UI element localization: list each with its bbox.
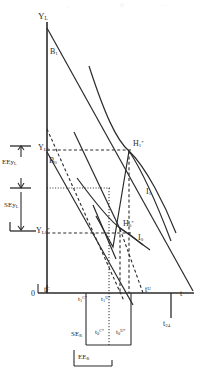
se-y-l-label: SEyL — [4, 202, 18, 209]
se-r-label: SER — [71, 331, 82, 338]
t-axis-end-label: t — [180, 290, 182, 298]
figure-canvas: ,, 0 — — [0, 0, 197, 377]
budget-line-1-label: B1 — [50, 48, 58, 57]
t1-u-star-label: t1U* — [101, 296, 110, 303]
ee-y-l-label: EEyL — [2, 159, 17, 166]
origin-label: 0 — [31, 290, 35, 298]
t-c-label: tC — [44, 286, 50, 294]
indifference-curve-0-label: I0 — [138, 234, 143, 243]
dashed-compensated-line — [47, 129, 124, 301]
indifference-curve-1-label: I1 — [146, 188, 151, 197]
y-axis-top-label: YL — [38, 12, 48, 22]
ee-r-label: EER — [78, 354, 89, 361]
t1-c-star-label: t1C* — [78, 296, 87, 303]
y-l0-label: YL0 — [38, 144, 49, 153]
t-24-label: t24 — [163, 320, 170, 329]
budget-line-0-label: B0 — [49, 157, 57, 166]
equilibrium-1-label: H1* — [133, 140, 144, 149]
equilibrium-0-label: H0* — [123, 220, 134, 229]
t-u-label: tU — [145, 286, 151, 294]
t0-c-star-label: t0C* — [95, 329, 104, 336]
y-l0-star-label: YL0* — [36, 227, 50, 236]
t0-u-star-label: t0U* — [116, 329, 125, 336]
